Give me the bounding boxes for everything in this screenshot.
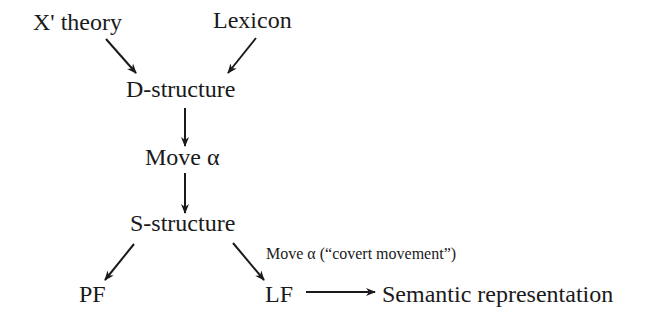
- node-d-structure: D-structure: [126, 76, 235, 102]
- node-semantic-representation: Semantic representation: [382, 281, 613, 307]
- node-xbar-theory: X' theory: [33, 9, 122, 35]
- node-pf: PF: [79, 281, 106, 307]
- node-lf: LF: [265, 281, 293, 307]
- edge-label-covert-movement: Move α (“covert movement”): [266, 245, 456, 263]
- grammar-model-diagram: X' theory Lexicon D-structure Move α S-s…: [0, 0, 660, 330]
- node-move-alpha: Move α: [145, 144, 220, 170]
- node-lexicon: Lexicon: [213, 7, 292, 33]
- arrow-xbar-to-d-structure: [106, 39, 136, 73]
- node-s-structure: S-structure: [130, 210, 235, 236]
- arrow-s-structure-to-pf: [105, 244, 134, 280]
- arrow-s-structure-to-lf: [233, 243, 264, 280]
- arrow-lexicon-to-d-structure: [228, 38, 256, 73]
